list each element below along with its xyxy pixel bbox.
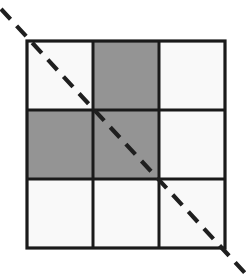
cell-r1c2 — [93, 41, 159, 110]
cell-r3c2 — [93, 179, 159, 248]
figure-root — [0, 0, 247, 278]
cell-r3c1 — [27, 179, 93, 248]
cell-r1c3 — [159, 41, 225, 110]
grid-diagram-svg — [0, 0, 247, 278]
cell-r2c3 — [159, 110, 225, 179]
cell-r2c1 — [27, 110, 93, 179]
